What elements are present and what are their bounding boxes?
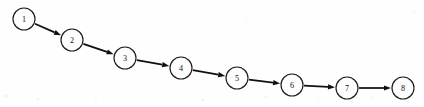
scan-speckle [95,100,97,102]
node-label: 1 [22,15,26,24]
scan-speckle [189,11,190,12]
node-label: 7 [345,84,349,93]
node-label: 5 [235,74,239,83]
scan-speckle [59,79,60,80]
node-label: 6 [290,81,294,90]
edge-line [304,86,328,87]
edge-5-to-6 [249,80,280,86]
scan-speckle [5,95,7,97]
arrowhead-icon [162,62,169,67]
scan-speckle [7,59,8,60]
scan-speckle [245,21,246,22]
graph-node-5[interactable]: 5 [226,67,248,89]
graph-node-8[interactable]: 8 [392,77,414,99]
edge-7-to-8 [359,85,391,90]
edge-line [193,70,218,75]
scan-speckle [111,13,112,14]
arrowhead-icon [384,85,391,90]
graph-node-6[interactable]: 6 [281,74,303,96]
edge-line [83,44,107,52]
edge-1-to-2 [35,24,61,35]
scan-speckle [265,96,267,98]
scan-speckle [399,51,400,52]
graph-node-3[interactable]: 3 [114,47,136,69]
edge-line [137,60,162,65]
scan-speckle [202,99,204,101]
graph-svg: 12345678 [0,0,424,107]
arrowhead-icon [54,30,61,35]
graph-node-2[interactable]: 2 [61,29,83,51]
edge-3-to-4 [137,60,169,67]
scan-speckle [371,97,373,99]
node-label: 2 [70,36,74,45]
edges-layer [35,24,391,91]
node-label: 3 [123,54,127,63]
scan-speckle [413,11,415,13]
arrowhead-icon [106,49,113,54]
node-label: 8 [401,84,405,93]
edge-line [249,80,273,83]
graph-node-4[interactable]: 4 [170,57,192,79]
nodes-layer: 12345678 [13,8,414,99]
edge-line [35,24,55,33]
graph-node-1[interactable]: 1 [13,8,35,30]
arrowhead-icon [328,84,335,89]
edge-2-to-3 [83,44,113,54]
graph-node-7[interactable]: 7 [336,77,358,99]
scan-speckle [329,29,330,30]
node-label: 4 [179,64,183,73]
scan-speckle [37,98,39,100]
arrowhead-icon [273,80,280,85]
edge-6-to-7 [304,84,335,89]
edge-4-to-5 [193,70,225,77]
figure-canvas: 12345678 [0,0,424,107]
arrowhead-icon [218,72,225,77]
scan-speckle [317,101,318,102]
scan-speckle [149,95,150,96]
